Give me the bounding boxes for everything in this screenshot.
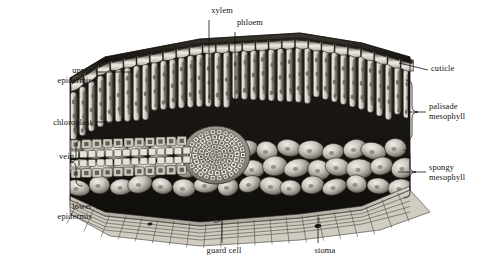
label-chloroplast: chloroplast: [8, 118, 92, 128]
label-lower-epidermis: lower epidermis: [12, 202, 92, 223]
label-upper-epidermis: upper epidermis: [14, 66, 92, 87]
label-stoma: stoma: [298, 246, 352, 256]
label-palisade-line2: mesophyll: [429, 112, 489, 122]
label-upper-epidermis-line2: epidermis: [14, 76, 92, 86]
label-upper-epidermis-line1: upper: [14, 66, 92, 76]
label-lower-epidermis-line1: lower: [12, 202, 92, 212]
label-cuticle: cuticle: [431, 64, 487, 74]
label-vein: vein: [28, 152, 74, 162]
label-spongy-line1: spongy: [429, 163, 489, 173]
label-xylem: xylem: [196, 6, 248, 16]
figure-canvas: upper epidermis chloroplast vein lower e…: [0, 0, 491, 280]
label-spongy-line2: mesophyll: [429, 173, 489, 183]
label-phloem: phloem: [222, 18, 278, 28]
label-palisade-mesophyll: palisade mesophyll: [429, 102, 489, 123]
vascular-bundle-veins: [182, 126, 250, 184]
label-lower-epidermis-line2: epidermis: [12, 212, 92, 222]
label-palisade-line1: palisade: [429, 102, 489, 112]
label-guard-cell: guard cell: [188, 246, 260, 256]
label-spongy-mesophyll: spongy mesophyll: [429, 163, 489, 184]
leaf-block-illustration: [0, 0, 491, 280]
